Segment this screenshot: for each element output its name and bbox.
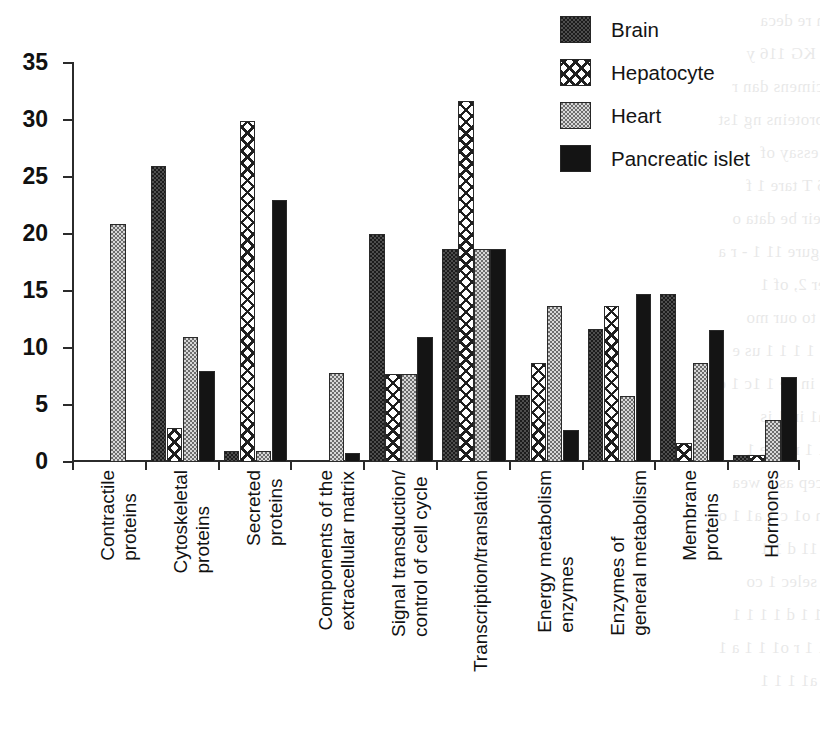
x-axis-label-5: Transcription/translation (470, 470, 492, 672)
bar-brain (660, 294, 676, 462)
x-axis-tick (290, 460, 292, 470)
x-axis-tick (509, 460, 511, 470)
bar-group (224, 63, 297, 462)
bar-pancreatic (563, 430, 579, 462)
x-axis-label-8: Membraneproteins (679, 470, 723, 561)
x-axis-label-line: proteins (192, 470, 214, 574)
bar-hepatocyte (240, 121, 256, 462)
bar-brain (442, 249, 458, 462)
x-axis-label-line: Components of the (315, 470, 337, 631)
x-axis-tick (72, 460, 74, 470)
x-axis-label-line: Contractile (97, 470, 119, 561)
bar-brain (224, 451, 240, 462)
bar-brain (588, 329, 604, 462)
bar-group (442, 63, 515, 462)
x-axis-tick (363, 460, 365, 470)
bar-chart: BrainHepatocyteHeartPancreatic islet 051… (0, 0, 820, 733)
bar-brain (151, 166, 167, 462)
bar-heart (474, 249, 490, 462)
bar-hepatocyte (385, 374, 401, 462)
x-axis-label-line: enzymes (556, 470, 578, 633)
x-axis-label-line: Transcription/translation (470, 470, 492, 672)
x-axis-tick (582, 460, 584, 470)
y-axis-tick-label: 25 (22, 163, 48, 190)
legend-label: Brain (611, 18, 659, 42)
x-axis-label-4: Signal transduction/control of cell cycl… (388, 470, 432, 637)
bar-group (515, 63, 588, 462)
dark-speckle-swatch (560, 16, 591, 43)
bar-hepatocyte (458, 101, 474, 462)
bar-brain (733, 455, 749, 462)
bar-group (660, 63, 733, 462)
y-axis-tick-label: 15 (22, 277, 48, 304)
x-axis-tick (727, 460, 729, 470)
bar-heart (401, 374, 417, 462)
x-axis-tick (145, 460, 147, 470)
y-axis-tick: 25 (63, 176, 74, 178)
x-axis-label-1: Cytoskeletalproteins (170, 470, 214, 574)
bar-group (296, 63, 369, 462)
x-axis-label-line: proteins (119, 470, 141, 561)
bar-pancreatic (417, 337, 433, 462)
y-axis-tick: 10 (63, 347, 74, 349)
bar-heart (183, 337, 199, 462)
x-axis-label-7: Enzymes ofgeneral metabolism (607, 470, 651, 636)
y-axis-tick: 35 (63, 62, 74, 64)
bar-heart (765, 420, 781, 462)
bar-hepatocyte (167, 428, 183, 462)
y-axis-tick: 5 (63, 404, 74, 406)
bar-group (78, 63, 151, 462)
bar-brain (515, 395, 531, 462)
bar-group (369, 63, 442, 462)
bar-heart (547, 306, 563, 462)
bar-pancreatic (636, 294, 652, 462)
bar-heart (693, 363, 709, 462)
x-axis-label-line: Signal transduction/ (388, 470, 410, 637)
y-axis-tick: 20 (63, 233, 74, 235)
y-axis-tick-label: 0 (35, 448, 48, 475)
x-axis-label-line: Enzymes of (607, 470, 629, 636)
x-axis-label-9: Hormones (761, 470, 783, 558)
y-axis-tick-label: 5 (35, 391, 48, 418)
bar-hepatocyte (749, 455, 765, 462)
bar-heart (620, 396, 636, 462)
y-axis-tick-label: 30 (22, 106, 48, 133)
x-axis-label-3: Components of theextracellular matrix (315, 470, 359, 631)
x-axis-label-line: Cytoskeletal (170, 470, 192, 574)
bar-brain (296, 460, 312, 462)
x-axis-label-line: Secreted (243, 470, 265, 546)
bar-pancreatic (709, 330, 725, 462)
bar-brain (369, 234, 385, 462)
x-axis-label-6: Energy metabolismenzymes (534, 470, 578, 633)
bar-group (733, 63, 806, 462)
x-axis-label-line: proteins (701, 470, 723, 561)
bar-pancreatic (272, 200, 288, 462)
x-axis-label-0: Contractileproteins (97, 470, 141, 561)
y-axis-tick-label: 20 (22, 220, 48, 247)
plot-area: 05101520253035 (72, 63, 800, 462)
x-axis-tick-end (798, 460, 800, 470)
x-axis-category-labels: ContractileproteinsCytoskeletalproteinsS… (72, 470, 800, 710)
x-axis-label-2: Secretedproteins (243, 470, 287, 546)
bar-hepatocyte (676, 443, 692, 462)
legend-item-brain: Brain (560, 8, 812, 51)
bar-heart (110, 224, 126, 462)
bar-hepatocyte (531, 363, 547, 462)
y-axis-tick-label: 35 (22, 49, 48, 76)
x-axis-label-line: general metabolism (629, 470, 651, 636)
y-axis-tick-label: 10 (22, 334, 48, 361)
x-axis-label-line: extracellular matrix (337, 470, 359, 631)
x-axis-label-line: Membrane (679, 470, 701, 561)
x-axis-label-line: Hormones (761, 470, 783, 558)
bar-heart (256, 451, 272, 462)
y-axis-tick: 15 (63, 290, 74, 292)
bar-pancreatic (490, 249, 506, 462)
bar-group (151, 63, 224, 462)
bar-pancreatic (345, 453, 361, 462)
y-axis-line (72, 63, 74, 462)
x-axis-tick (218, 460, 220, 470)
x-axis-label-line: control of cell cycle (410, 470, 432, 637)
bar-hepatocyte (604, 306, 620, 462)
bar-heart (329, 373, 345, 462)
bar-group (588, 63, 661, 462)
